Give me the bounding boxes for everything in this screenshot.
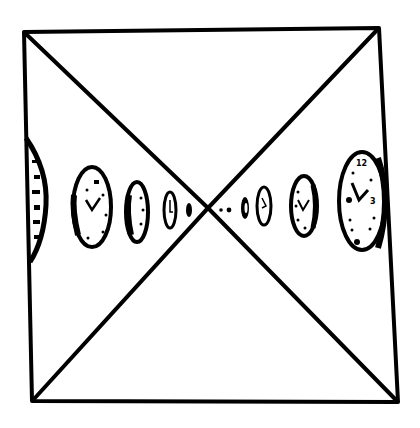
clock-icon	[227, 208, 232, 213]
clock-icon	[73, 167, 111, 247]
clock-icon	[126, 182, 148, 242]
clock-icon	[186, 203, 192, 217]
svg-text:12: 12	[356, 159, 367, 168]
clock-icon: 12 3	[339, 152, 385, 250]
clock-icon	[164, 192, 176, 228]
clock-icon	[291, 176, 317, 236]
perspective-sketch: 12 3	[0, 0, 420, 428]
sketch-canvas: 12 3	[0, 0, 420, 428]
clock-icon	[257, 187, 271, 225]
svg-text:3: 3	[370, 197, 376, 206]
clock-icon	[219, 208, 223, 212]
clock-icon	[241, 197, 249, 219]
